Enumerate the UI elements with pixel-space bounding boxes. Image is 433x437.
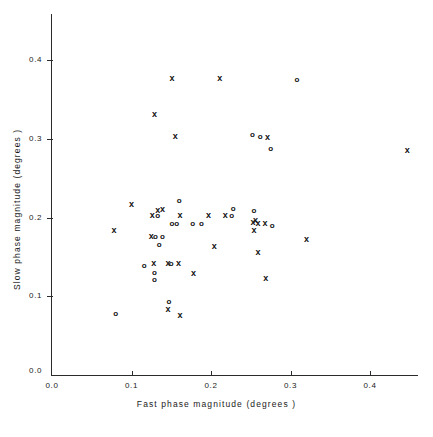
y-tick-0.4 <box>47 60 53 61</box>
x-tick-0.1 <box>132 371 133 376</box>
data-point-x: x <box>210 242 219 251</box>
data-point-o: o <box>111 309 120 318</box>
data-point-x: x <box>253 248 262 257</box>
data-point-o: o <box>268 221 277 230</box>
data-point-x: x <box>110 226 119 235</box>
data-point-o: o <box>292 75 301 84</box>
x-tick-0.3 <box>291 371 292 376</box>
scatter-plot-figure: 0.10.20.30.4 0.00.10.20.30.4 0.0 Fast ph… <box>0 0 433 437</box>
x-tick-label-0.2: 0.2 <box>196 381 226 390</box>
y-tick-0.1 <box>47 296 53 297</box>
data-point-o: o <box>256 132 265 141</box>
y-tick-label-0.1: 0.1 <box>12 291 42 300</box>
data-point-o: o <box>140 261 149 270</box>
data-point-o: o <box>249 206 258 215</box>
x-tick-label-0.4: 0.4 <box>355 381 385 390</box>
data-point-o: o <box>197 219 206 228</box>
x-axis-line <box>51 375 418 376</box>
data-point-o: o <box>188 219 197 228</box>
y-tick-label-0.4: 0.4 <box>12 55 42 64</box>
data-point-o: o <box>172 219 181 228</box>
data-point-x: x <box>302 235 311 244</box>
data-point-x: x <box>403 146 412 155</box>
data-point-x: x <box>189 269 198 278</box>
y-axis-line <box>51 14 52 375</box>
data-point-x: x <box>171 132 180 141</box>
x-tick-label-0.3: 0.3 <box>276 381 306 390</box>
data-point-o: o <box>150 275 159 284</box>
data-point-x: x <box>168 74 177 83</box>
data-point-x: x <box>149 259 158 268</box>
data-point-o: o <box>164 297 173 306</box>
x-tick-0.4 <box>370 371 371 376</box>
x-tick-0.2 <box>211 371 212 376</box>
y-tick-0.2 <box>47 218 53 219</box>
x-tick-label-0.1: 0.1 <box>117 381 147 390</box>
data-point-x: x <box>164 305 173 314</box>
data-point-o: o <box>175 196 184 205</box>
data-point-x: x <box>215 74 224 83</box>
data-point-o: o <box>153 211 162 220</box>
data-point-o: o <box>266 144 275 153</box>
y-axis-title: Slow phase magnitude (degrees ) <box>12 129 22 290</box>
origin-tick-label: 0.0 <box>12 366 42 375</box>
x-axis-title: Fast phase magnitude (degrees ) <box>0 399 433 409</box>
data-point-o: o <box>155 240 164 249</box>
data-point-x: x <box>175 311 184 320</box>
data-point-o: o <box>229 204 238 213</box>
data-point-x: x <box>261 274 270 283</box>
data-point-o: o <box>167 259 176 268</box>
data-point-x: x <box>127 200 136 209</box>
data-point-x: x <box>150 110 159 119</box>
x-tick-label-0.0: 0.0 <box>37 381 67 390</box>
y-tick-0.3 <box>47 139 53 140</box>
data-point-x: x <box>249 226 258 235</box>
